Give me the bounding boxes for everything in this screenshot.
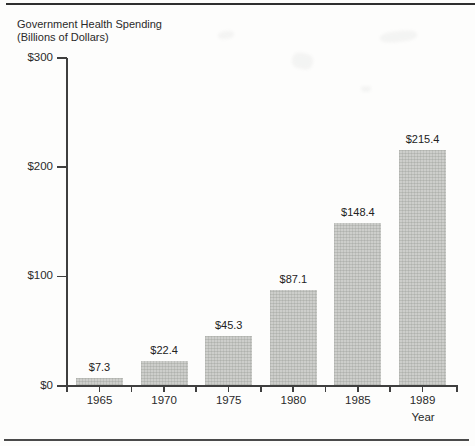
x-axis-tick-label: 1989 xyxy=(410,394,436,406)
x-axis-tick-label: 1965 xyxy=(87,394,113,406)
x-axis-tick-label: 1985 xyxy=(345,394,371,406)
x-axis-tick-label: 1980 xyxy=(281,394,307,406)
x-axis-tick xyxy=(422,386,424,393)
bar-1989 xyxy=(399,150,446,385)
bar-value-label: $22.4 xyxy=(150,344,178,356)
y-axis-tick-label: $100 xyxy=(12,269,53,281)
y-axis-tick-label: $0 xyxy=(12,379,53,391)
x-axis-tick xyxy=(195,386,197,393)
scanned-chart-figure: Government Health Spending (Billions of … xyxy=(0,0,475,446)
bar-value-label: $148.4 xyxy=(341,206,375,218)
bar-value-label: $7.3 xyxy=(89,361,110,373)
bar-value-label: $87.1 xyxy=(280,273,308,285)
bar-1980 xyxy=(270,290,317,385)
bar-1985 xyxy=(334,223,381,385)
bar-1970 xyxy=(141,361,188,385)
x-axis-end-tick xyxy=(456,386,458,393)
x-axis-tick xyxy=(228,386,230,393)
x-axis-tick xyxy=(131,386,133,393)
x-axis-tick-label: 1975 xyxy=(216,394,242,406)
y-axis-tick xyxy=(57,57,67,59)
y-axis-line xyxy=(66,58,68,392)
bar-chart-plot-area: $7.31965$22.41970$45.31975$87.11980$148.… xyxy=(0,0,475,446)
bar-value-label: $45.3 xyxy=(215,319,243,331)
y-axis-tick-label: $300 xyxy=(12,51,53,63)
x-axis-tick xyxy=(260,386,262,393)
y-axis-tick-label: $200 xyxy=(12,160,53,172)
x-axis-tick xyxy=(99,386,101,393)
bottom-rule-line xyxy=(4,439,469,441)
bar-value-label: $215.4 xyxy=(406,133,440,145)
x-axis-tick xyxy=(292,386,294,393)
bar-1975 xyxy=(205,336,252,385)
x-axis-tick xyxy=(389,386,391,393)
x-axis-title: Year xyxy=(411,411,434,423)
x-axis-tick xyxy=(163,386,165,393)
x-axis-tick xyxy=(357,386,359,393)
y-axis-tick xyxy=(57,166,67,168)
x-axis-line xyxy=(57,385,458,387)
y-axis-tick xyxy=(57,276,67,278)
x-axis-tick xyxy=(325,386,327,393)
x-axis-tick-label: 1970 xyxy=(151,394,177,406)
